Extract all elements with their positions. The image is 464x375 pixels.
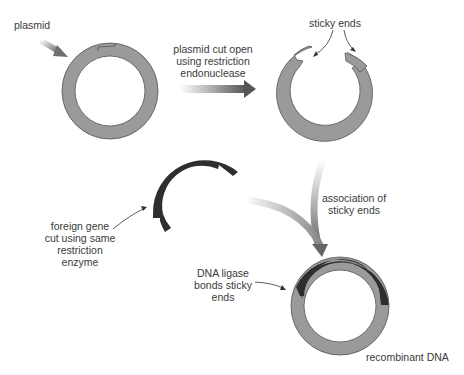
ligase-pointer [255, 282, 286, 290]
cut-step-line-2: using restriction [168, 55, 258, 67]
cut-step-line-3: endonuclease [168, 67, 258, 79]
sticky-ends-pointers [313, 30, 356, 57]
association-arrows [245, 160, 328, 257]
cut-step-line-1: plasmid cut open [168, 43, 258, 55]
plasmid-pointer-arrow [40, 40, 68, 57]
foreign-gene-line-4: enzyme [40, 256, 120, 268]
association-line-2: sticky ends [318, 204, 390, 216]
association-line-1: association of [318, 192, 390, 204]
ligase-line-1: DNA ligase [190, 267, 256, 279]
ligase-line-3: ends [190, 291, 256, 303]
sticky-ends-label: sticky ends [309, 17, 361, 29]
cut-process-arrow [180, 80, 256, 98]
foreign-gene-line-3: restriction [40, 244, 120, 256]
cut-step-label: plasmid cut open using restriction endon… [168, 43, 258, 79]
recombinant-label: recombinant DNA [366, 351, 449, 363]
foreign-gene-label: foreign gene cut using same restriction … [40, 220, 120, 268]
cut-plasmid [277, 46, 373, 141]
foreign-gene-fragment [153, 160, 238, 232]
foreign-gene-line-1: foreign gene [40, 220, 120, 232]
association-label: association of sticky ends [318, 192, 390, 216]
ligase-label: DNA ligase bonds sticky ends [190, 267, 256, 303]
recombinant-plasmid [291, 257, 389, 355]
intact-plasmid [62, 43, 158, 139]
foreign-gene-line-2: cut using same [40, 232, 120, 244]
plasmid-label: plasmid [14, 19, 50, 31]
ligase-line-2: bonds sticky [190, 279, 256, 291]
